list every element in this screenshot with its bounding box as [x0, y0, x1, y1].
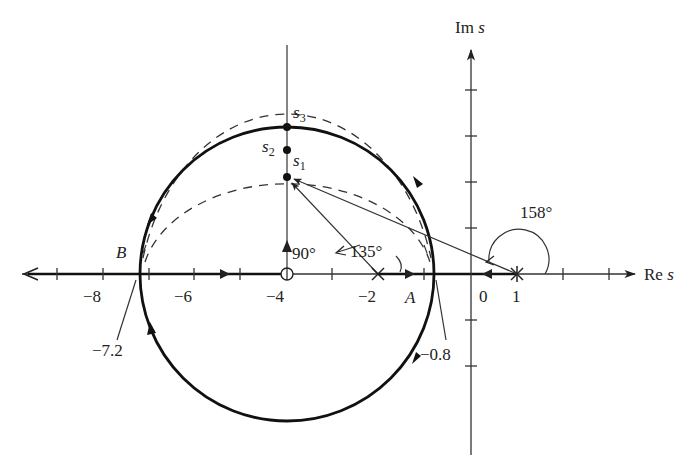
svg-text:−8: −8 — [83, 287, 101, 306]
svg-text:−6: −6 — [174, 287, 192, 306]
real-axis-label: Re s — [644, 265, 674, 284]
svg-text:−2: −2 — [358, 287, 376, 306]
angle-135-label: 135° — [350, 242, 382, 261]
test-point-s3 — [283, 123, 291, 131]
real-axis — [22, 268, 635, 280]
breakpoint-b-value: −7.2 — [92, 341, 123, 360]
angle-arc-158 — [489, 229, 549, 274]
test-point-s2 — [283, 146, 291, 154]
leader-minus-7-2 — [117, 280, 136, 340]
arrow-icon — [147, 213, 157, 225]
s2-label: s2 — [262, 137, 275, 159]
tick-mark-a — [424, 245, 427, 253]
angle-158-label: 158° — [520, 203, 552, 222]
s1-label: s1 — [293, 151, 306, 173]
real-axis-tick-labels: −8 −6 −4 −2 0 1 — [83, 287, 521, 306]
root-locus-diagram: s3 s2 s1 90° 135° 158° B A −7.2 −0.8 −8 … — [0, 0, 699, 476]
svg-text:−4: −4 — [266, 287, 285, 306]
breakpoint-a-value: −0.8 — [420, 345, 451, 364]
test-point-s1 — [283, 173, 291, 181]
leader-minus-0-8 — [436, 280, 446, 340]
breakpoint-b-label: B — [116, 243, 127, 262]
s3-label: s3 — [293, 103, 306, 125]
svg-text:0: 0 — [479, 287, 488, 306]
imaginary-axis-label: Im s — [455, 18, 485, 37]
angle-90-label: 90° — [292, 244, 316, 263]
angle-arc-135-pointer — [396, 256, 401, 272]
arrow-up-icon — [282, 240, 292, 252]
breakpoint-a-label: A — [404, 288, 416, 307]
svg-text:1: 1 — [512, 287, 521, 306]
vector-from-pole-plus1 — [294, 179, 517, 274]
arrow-icon — [413, 176, 423, 188]
